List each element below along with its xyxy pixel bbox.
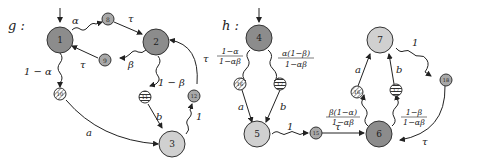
graph-h-label: h : <box>222 18 239 33</box>
edge-label-b-h2: b <box>396 64 402 75</box>
node-10[interactable]: 10 <box>54 88 66 100</box>
edge-3-12 <box>186 104 192 134</box>
node-7[interactable]: 7 <box>367 27 393 53</box>
svg-text:5: 5 <box>254 129 260 139</box>
svg-text:16: 16 <box>237 81 243 87</box>
edge-label-1-h2: 1 <box>412 37 418 48</box>
node-6[interactable]: 6 <box>366 121 392 147</box>
edge-label-1-minus-alpha: 1 − α <box>24 66 52 77</box>
node-5[interactable]: 5 <box>244 121 270 147</box>
graph-g-label: g : <box>8 18 25 33</box>
svg-text:2: 2 <box>153 37 159 47</box>
svg-text:9: 9 <box>103 57 107 64</box>
diagram-canvas: g : α τ β τ 1 − α a 1 − β b 1 τ <box>0 0 478 168</box>
edge-label-h-f4-den: 1−αβ <box>403 118 425 127</box>
edge-label-h-f3-den: 1−αβ <box>332 118 354 127</box>
node-17b[interactable]: 17 <box>390 84 402 96</box>
svg-text:4: 4 <box>256 33 262 43</box>
svg-text:3: 3 <box>169 139 175 149</box>
edge-label-a-h1: a <box>238 101 244 112</box>
edge-label-tau-12-2: τ <box>203 53 209 64</box>
node-1[interactable]: 1 <box>47 27 73 53</box>
svg-text:10: 10 <box>57 91 63 97</box>
node-17a[interactable]: 17 <box>274 78 286 90</box>
edge-label-h-f4-num: 1−β <box>406 108 423 117</box>
edge-17b-7 <box>389 54 394 84</box>
svg-text:17: 17 <box>393 87 399 93</box>
svg-text:1: 1 <box>57 35 63 45</box>
edge-10-3 <box>66 100 158 144</box>
edge-label-alpha: α <box>72 15 79 26</box>
edge-2-9 <box>120 50 146 58</box>
node-12[interactable]: 12 <box>188 90 200 102</box>
svg-text:15: 15 <box>313 130 319 136</box>
svg-text:17: 17 <box>277 81 283 87</box>
svg-text:11: 11 <box>142 94 148 100</box>
node-2[interactable]: 2 <box>143 29 169 55</box>
node-16b[interactable]: 16 <box>351 86 363 98</box>
node-3[interactable]: 3 <box>159 131 185 157</box>
svg-text:8: 8 <box>106 16 110 23</box>
edge-label-1: 1 <box>196 111 202 122</box>
edge-label-h-f3-num: β(1−α) <box>328 108 357 117</box>
svg-text:6: 6 <box>376 129 382 139</box>
node-4[interactable]: 4 <box>246 25 272 51</box>
edge-label-tau-9-1: τ <box>80 59 86 70</box>
node-18[interactable]: 18 <box>440 74 452 86</box>
edge-label-h-f2-den: 1−αβ <box>285 60 307 69</box>
edge-9-1 <box>72 46 98 58</box>
graph-h: h : 1−α 1−αβ α(1−β) 1−αβ a b 1 τ β(1−α) … <box>217 8 452 147</box>
edge-1-10 <box>58 53 62 87</box>
edge-6-16b <box>362 95 368 126</box>
edge-label-beta: β <box>127 59 134 70</box>
edge-label-tau-18-6: τ <box>422 136 428 147</box>
edge-6-17b <box>392 95 398 126</box>
edge-label-1-minus-beta: 1 − β <box>158 77 185 88</box>
edge-label-1-h1: 1 <box>287 121 293 132</box>
svg-text:18: 18 <box>443 77 449 83</box>
edge-label-tau-8-2: τ <box>128 13 134 24</box>
edge-4-17a <box>268 50 279 83</box>
node-9[interactable]: 9 <box>99 54 111 66</box>
node-15[interactable]: 15 <box>310 127 322 139</box>
edge-label-a-h2: a <box>355 64 361 75</box>
svg-text:16: 16 <box>354 89 360 95</box>
svg-text:12: 12 <box>191 93 197 99</box>
node-8[interactable]: 8 <box>102 13 114 25</box>
node-11[interactable]: 11 <box>139 91 151 103</box>
edge-17a-5 <box>266 90 280 122</box>
edge-label-h-f2-num: α(1−β) <box>282 49 310 58</box>
edge-label-b-h1: b <box>280 101 286 112</box>
edge-label-a: a <box>86 127 92 138</box>
svg-text:7: 7 <box>377 35 383 45</box>
edge-label-h-f1-den: 1−αβ <box>219 57 241 66</box>
edge-label-h-f1-num: 1−α <box>221 47 239 56</box>
edge-label-b: b <box>156 111 162 122</box>
graph-g: g : α τ β τ 1 − α a 1 − β b 1 τ <box>8 8 209 157</box>
node-16a[interactable]: 16 <box>234 78 246 90</box>
